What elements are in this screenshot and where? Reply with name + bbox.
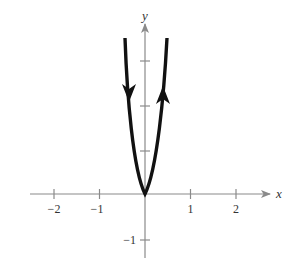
x-tick-label: −1 (91, 202, 104, 216)
x-tick-label: −2 (48, 202, 61, 216)
x-axis-label: x (275, 186, 282, 201)
x-tick-label: 1 (188, 202, 194, 216)
y-tick-label: −1 (123, 233, 136, 247)
y-axis-label: y (140, 8, 148, 23)
parabola-chart: −2 −1 1 2 −1 x y (0, 0, 303, 268)
x-tick-label: 2 (233, 202, 239, 216)
